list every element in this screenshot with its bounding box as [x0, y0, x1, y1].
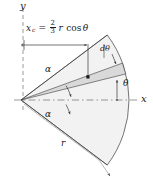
formula-subscript: c	[32, 26, 35, 33]
sector-centroid-figure: y x α α θ dθ r xc = 2 3 r cos θ	[0, 0, 153, 182]
radius-label: r	[61, 139, 65, 148]
alpha-lower-label: α	[45, 110, 51, 119]
formula-radius: r	[58, 23, 62, 33]
y-axis-label: y	[20, 1, 26, 11]
dtheta-label: dθ	[100, 45, 110, 53]
formula-trig: cos	[66, 23, 81, 33]
formula-variable: x	[26, 23, 31, 33]
centroid-marker	[86, 75, 89, 78]
alpha-upper-label: α	[45, 65, 51, 74]
formula-angle: θ	[83, 23, 88, 33]
theta-label: θ	[123, 79, 128, 88]
formula-equals: =	[38, 23, 46, 33]
formula-fraction: 2 3	[50, 20, 56, 36]
x-axis-label: x	[141, 94, 147, 104]
formula-fraction-denominator: 3	[50, 27, 56, 35]
centroid-formula: xc = 2 3 r cos θ	[26, 20, 88, 36]
formula-fraction-numerator: 2	[50, 20, 56, 27]
